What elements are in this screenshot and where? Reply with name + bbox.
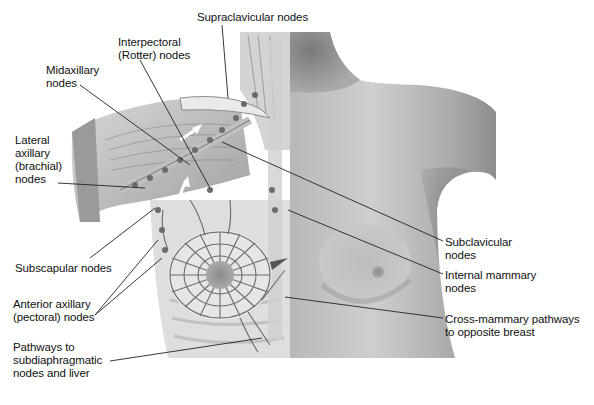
label-interpectoral-nodes: Interpectoral (Rotter) nodes [118,36,190,62]
label-subdiaphragmatic-pathways: Pathways to subdiaphragmatic nodes and l… [13,341,102,380]
label-cross-mammary-pathways: Cross-mammary pathways to opposite breas… [445,313,580,339]
label-subscapular-nodes: Subscapular nodes [15,262,112,275]
breast-lymphatics-illustration: Supraclavicular nodes Interpectoral (Rot… [0,0,594,405]
label-lateral-axillary-nodes: Lateral axillary (brachial) nodes [15,134,62,186]
label-internal-mammary-nodes: Internal mammary nodes [445,269,536,295]
label-subclavicular-nodes: Subclavicular nodes [445,236,512,262]
label-anterior-axillary-nodes: Anterior axillary (pectoral) nodes [13,298,95,324]
dissected-half [72,32,290,358]
label-supraclavicular-nodes: Supraclavicular nodes [197,11,308,24]
label-midaxillary-nodes: Midaxillary nodes [46,64,99,90]
skin-half [290,32,496,358]
